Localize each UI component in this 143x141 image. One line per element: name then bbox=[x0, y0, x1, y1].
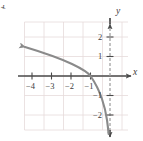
coordinate-plane-svg bbox=[0, 0, 143, 141]
y-tick-label-1: 1 bbox=[98, 52, 102, 61]
y-axis-label: y bbox=[116, 7, 120, 17]
y-tick-label-neg2: −2 bbox=[93, 111, 102, 120]
x-axis bbox=[18, 73, 131, 80]
x-axis-label: x bbox=[133, 68, 137, 78]
x-tick-label-neg3: −3 bbox=[46, 82, 55, 91]
graph-figure: 4. bbox=[0, 0, 143, 141]
x-tick-label-neg4: −4 bbox=[26, 82, 35, 91]
y-tick-label-2: 2 bbox=[98, 33, 102, 42]
y-tick-label-neg1: −1 bbox=[93, 91, 102, 100]
x-tick-label-neg2: −2 bbox=[65, 82, 74, 91]
